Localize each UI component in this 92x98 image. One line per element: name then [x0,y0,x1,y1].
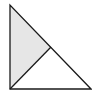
shaded-sub-triangle [10,5,51,89]
triangle-diagram [0,0,92,98]
